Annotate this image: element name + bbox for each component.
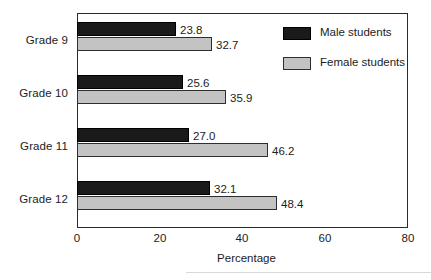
bar-chart: Grade 9 Grade 10 Grade 11 Grade 12 23.8 … [0, 0, 431, 280]
bar-value-male-grade-11: 27.0 [193, 131, 215, 143]
bar-value-male-grade-12: 32.1 [214, 184, 236, 196]
legend-swatch-male-icon [283, 27, 311, 40]
bar-female-grade-11 [77, 143, 268, 157]
x-axis-title-text: Percentage [217, 252, 276, 264]
xtick-label-20: 20 [154, 233, 167, 245]
legend-item-male: Male students [283, 25, 405, 41]
bar-value-female-grade-11: 46.2 [272, 146, 294, 158]
legend-item-female: Female students [283, 55, 405, 71]
xtick-label-0: 0 [74, 233, 80, 245]
category-label-grade-12: Grade 12 [19, 194, 68, 206]
category-label-grade-10: Grade 10 [19, 88, 68, 100]
bar-value-female-grade-12: 48.4 [281, 199, 303, 211]
bar-value-female-grade-10: 35.9 [230, 93, 252, 105]
category-label-grade-9: Grade 9 [26, 35, 68, 47]
bar-male-grade-12 [77, 181, 210, 195]
bar-value-male-grade-10: 25.6 [187, 78, 209, 90]
legend-label-female: Female students [320, 57, 405, 69]
xtick-label-80: 80 [402, 233, 415, 245]
bar-male-grade-10 [77, 75, 183, 89]
category-label-grade-11: Grade 11 [20, 141, 68, 153]
bar-female-grade-9 [77, 37, 212, 51]
bar-value-male-grade-9: 23.8 [180, 25, 202, 37]
bar-female-grade-12 [77, 196, 277, 210]
legend: Male students Female students [283, 25, 405, 85]
scan-artifact-line [186, 272, 431, 273]
bar-male-grade-9 [77, 22, 176, 36]
legend-swatch-female-icon [283, 57, 311, 70]
bar-value-female-grade-9: 32.7 [216, 40, 238, 52]
legend-label-male: Male students [320, 27, 392, 39]
xtick-label-40: 40 [236, 233, 249, 245]
xtick-label-60: 60 [319, 233, 332, 245]
bar-male-grade-11 [77, 128, 189, 142]
x-axis-title: Percentage [0, 253, 431, 265]
bar-female-grade-10 [77, 90, 226, 104]
